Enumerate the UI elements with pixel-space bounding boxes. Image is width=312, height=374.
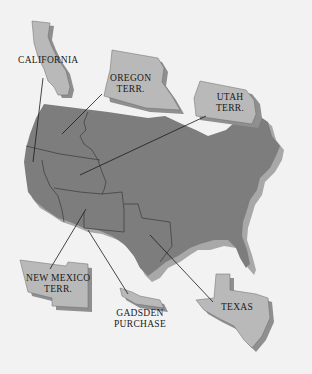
label-gadsden-purchase: GADSDEN PURCHASE bbox=[114, 308, 166, 330]
label-oregon-territory: OREGON TERR. bbox=[110, 73, 151, 95]
texas-shape bbox=[196, 274, 274, 352]
territorial-acquisitions-map: CALIFORNIA OREGON TERR. UTAH TERR. NEW M… bbox=[0, 0, 312, 374]
label-new-mexico-territory: NEW MEXICO TERR. bbox=[26, 273, 90, 295]
label-utah-territory: UTAH TERR. bbox=[216, 92, 244, 114]
us-mainland bbox=[24, 104, 280, 276]
label-texas: TEXAS bbox=[221, 302, 253, 313]
label-california: CALIFORNIA bbox=[18, 55, 79, 66]
